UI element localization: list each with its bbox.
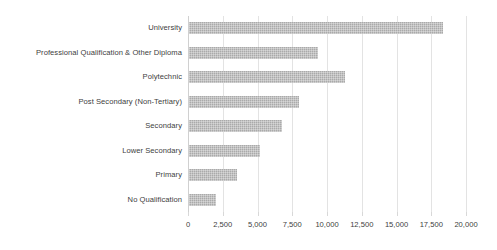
x-tick-mark bbox=[223, 212, 224, 216]
category-label: Secondary bbox=[0, 122, 182, 130]
bar-track bbox=[189, 65, 467, 90]
x-tick-mark bbox=[327, 212, 328, 216]
bar-row: University bbox=[0, 16, 497, 41]
x-axis: 02,5005,0007,50010,00012,50015,00017,500… bbox=[188, 212, 466, 234]
bar bbox=[189, 169, 237, 181]
x-tick-mark bbox=[397, 212, 398, 216]
x-tick-mark bbox=[431, 212, 432, 216]
bar-track bbox=[189, 163, 467, 188]
x-tick-label: 20,000 bbox=[454, 220, 477, 229]
bar-row: Secondary bbox=[0, 114, 497, 139]
x-tick-label: 7,500 bbox=[283, 220, 302, 229]
x-tick-mark bbox=[292, 212, 293, 216]
bar-row: Polytechnic bbox=[0, 65, 497, 90]
category-label: University bbox=[0, 24, 182, 32]
category-label: Lower Secondary bbox=[0, 147, 182, 155]
bar bbox=[189, 22, 443, 34]
x-tick-mark bbox=[188, 212, 189, 216]
bar-row: No Qualification bbox=[0, 188, 497, 213]
x-tick-label: 2,500 bbox=[213, 220, 232, 229]
bar-row: Primary bbox=[0, 163, 497, 188]
category-label: No Qualification bbox=[0, 196, 182, 204]
category-label: Polytechnic bbox=[0, 73, 182, 81]
x-tick-mark bbox=[258, 212, 259, 216]
bar-track bbox=[189, 41, 467, 66]
bar-row: Professional Qualification & Other Diplo… bbox=[0, 41, 497, 66]
x-tick-label: 0 bbox=[186, 220, 190, 229]
bar bbox=[189, 96, 299, 108]
bar-track bbox=[189, 90, 467, 115]
category-label: Primary bbox=[0, 171, 182, 179]
bar-track bbox=[189, 188, 467, 213]
bar-track bbox=[189, 114, 467, 139]
x-tick-label: 10,000 bbox=[315, 220, 338, 229]
bar bbox=[189, 71, 345, 83]
bar-chart: UniversityProfessional Qualification & O… bbox=[0, 0, 497, 250]
bar-row: Lower Secondary bbox=[0, 139, 497, 164]
x-tick-label: 17,500 bbox=[420, 220, 443, 229]
bar-track bbox=[189, 16, 467, 41]
bar bbox=[189, 47, 318, 59]
x-tick-mark bbox=[466, 212, 467, 216]
bar bbox=[189, 194, 216, 206]
category-label: Professional Qualification & Other Diplo… bbox=[0, 49, 182, 57]
bar bbox=[189, 145, 260, 157]
bar-row: Post Secondary (Non-Tertiary) bbox=[0, 90, 497, 115]
x-tick-label: 15,000 bbox=[385, 220, 408, 229]
x-tick-label: 12,500 bbox=[350, 220, 373, 229]
bar-rows: UniversityProfessional Qualification & O… bbox=[0, 16, 497, 212]
bar-track bbox=[189, 139, 467, 164]
category-label: Post Secondary (Non-Tertiary) bbox=[0, 98, 182, 106]
x-tick-mark bbox=[362, 212, 363, 216]
x-tick-label: 5,000 bbox=[248, 220, 267, 229]
bar bbox=[189, 120, 282, 132]
